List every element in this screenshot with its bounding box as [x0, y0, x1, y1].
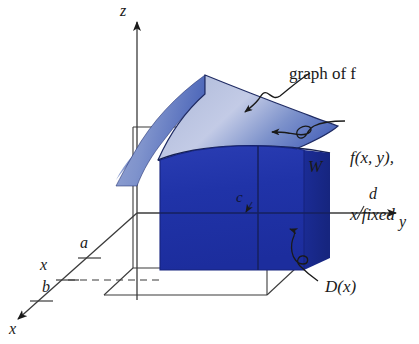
slab-front-face: [160, 146, 304, 270]
tick-label-a: a: [80, 234, 88, 252]
tick-label-c: c: [236, 189, 243, 206]
annotation-region-dx: D(x): [325, 277, 356, 296]
cross-section-line-2: x fixed: [350, 205, 395, 224]
axis-label-y: y: [399, 213, 406, 231]
tick-label-x-fixed: x: [40, 256, 47, 274]
annotation-cross-section: f(x, y), x fixed: [350, 110, 395, 262]
axis-label-x: x: [9, 320, 16, 338]
x-axis: [18, 213, 137, 319]
annotation-region-w: W: [308, 157, 322, 176]
annotation-graph-of-f: graph of f: [272, 45, 356, 102]
axis-label-z: z: [120, 2, 126, 20]
graph-of-f-text: graph of f: [289, 64, 356, 83]
tick-label-b: b: [42, 278, 50, 296]
cross-section-line-1: f(x, y),: [350, 148, 395, 167]
figure-container: z y x a b x c d graph of f f(x, y), x fi…: [0, 0, 419, 344]
